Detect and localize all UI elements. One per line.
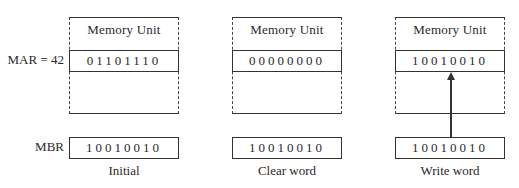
- panel-initial: Memory Unit 01101110 10010010 Initial: [69, 0, 181, 188]
- memory-word-at-mar: 01101110: [69, 50, 179, 72]
- memory-word-at-mar: 00000000: [232, 50, 342, 72]
- panel-caption: Clear word: [232, 163, 342, 179]
- arrow-up-icon: [447, 72, 455, 80]
- write-arrow-shaft: [450, 78, 452, 137]
- mbr-register: 10010010: [69, 137, 179, 159]
- memory-unit-title: Memory Unit: [395, 22, 505, 38]
- mar-label: MAR = 42: [0, 52, 64, 68]
- mbr-register: 10010010: [395, 137, 505, 159]
- mbr-label: MBR: [0, 139, 64, 155]
- memory-unit-title: Memory Unit: [232, 22, 342, 38]
- panel-write-word: Memory Unit 10010010 10010010 Write word: [395, 0, 507, 188]
- panel-clear-word: Memory Unit 00000000 10010010 Clear word: [232, 0, 344, 188]
- panel-caption: Write word: [395, 163, 505, 179]
- memory-word-at-mar: 10010010: [395, 50, 505, 72]
- panel-caption: Initial: [69, 163, 179, 179]
- mbr-register: 10010010: [232, 137, 342, 159]
- memory-unit-title: Memory Unit: [69, 22, 179, 38]
